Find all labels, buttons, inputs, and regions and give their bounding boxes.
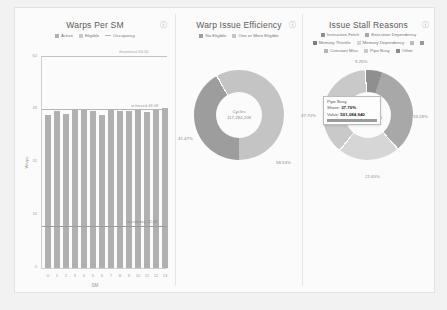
x-axis-title: SM (15, 283, 175, 288)
theoretical-occupancy-label: theoretical 64.00 (119, 49, 149, 54)
help-icon-issue-stall-reasons[interactable]: ⓘ (421, 20, 430, 29)
legend-swatch-memory-throttle (313, 41, 317, 45)
x-tick-13: 13 (160, 273, 170, 278)
legend-label-instruction-fetch: Instruction Fetch (327, 32, 359, 37)
legend-swatch-no-eligible (199, 34, 203, 38)
bar-sm-8[interactable] (117, 111, 123, 268)
legend-label-memory-throttle: Memory Throttle (319, 40, 351, 45)
legend-warp-issue-efficiency: No Eligible One or More Eligible (176, 33, 302, 38)
tooltip-accent-bar (327, 119, 377, 122)
help-icon-warp-issue-efficiency[interactable]: ⓘ (288, 20, 297, 29)
slice-pct-execution-dependency: 33.28% (413, 114, 428, 119)
tooltip-value-label: Value: (327, 112, 339, 117)
bar-sm-1[interactable] (54, 111, 60, 268)
bar-sm-12[interactable] (153, 110, 159, 268)
occupancy-line (42, 226, 167, 227)
panel-title-warp-issue-efficiency: Warp Issue Efficiency (176, 20, 302, 30)
slice-pct-pipe-busy: 37.70% (301, 113, 316, 118)
bar-sm-7[interactable] (108, 110, 114, 268)
legend-swatch-execution-dependency (365, 33, 369, 37)
legend-item-synchronization[interactable] (410, 40, 414, 45)
legend-item-not-selected[interactable] (420, 40, 424, 45)
legend-swatch-synchronization (410, 41, 414, 45)
bar-sm-6[interactable] (99, 115, 105, 268)
bar-sm-3[interactable] (72, 109, 78, 268)
legend-item-no-eligible[interactable]: No Eligible (199, 33, 226, 38)
slice-pct-no-eligible: 41.47% (178, 136, 193, 141)
achieved-occupancy-label: achieved 48.08 (131, 103, 158, 108)
legend-item-memory-throttle[interactable]: Memory Throttle (313, 40, 351, 45)
legend-label-memory-dependency: Memory Dependency (363, 40, 405, 45)
x-axis-line (41, 268, 167, 269)
slice-pct-one-or-more-eligible: 58.53% (276, 160, 291, 165)
legend-item-constant-miss[interactable]: Constant Miss (324, 48, 358, 53)
legend-swatch-other (396, 49, 400, 53)
tooltip-pipe-busy: Pipe Busy Share: 37.70% Value: 501,084,9… (323, 96, 381, 125)
panel-title-issue-stall-reasons: Issue Stall Reasons (303, 20, 434, 30)
bar-sm-4[interactable] (81, 109, 87, 268)
legend-item-other[interactable]: Other (396, 48, 413, 53)
legend-issue-stall-reasons: Instruction Fetch Execution Dependency M… (303, 32, 434, 53)
tooltip-share-label: Share: (327, 105, 340, 110)
y-tick-48: 48 (23, 105, 37, 110)
legend-swatch-constant-miss (324, 49, 328, 53)
occupancy-value-label: occupancy 12.68 (127, 219, 157, 224)
bar-sm-9[interactable] (126, 111, 132, 268)
legend-label-no-eligible: No Eligible (205, 33, 226, 38)
legend-label-constant-miss: Constant Miss (330, 48, 358, 53)
legend-item-one-or-more-eligible[interactable]: One or More Eligible (232, 33, 278, 38)
dashboard-canvas: Warps Per SM ⓘ Active Eligible Occupancy (14, 7, 435, 293)
panel-issue-stall-reasons: Issue Stall Reasons ⓘ Instruction Fetch … (303, 8, 434, 292)
legend-item-instruction-fetch[interactable]: Instruction Fetch (321, 32, 359, 37)
dashboard-page: Warps Per SM ⓘ Active Eligible Occupancy (0, 0, 447, 310)
bar-sm-11[interactable] (144, 112, 150, 268)
bar-sm-5[interactable] (90, 111, 96, 268)
bar-sm-10[interactable] (135, 110, 141, 268)
legend-swatch-instruction-fetch (321, 33, 325, 37)
bar-sm-2[interactable] (63, 114, 69, 268)
tooltip-value-value: 501,084,940 (340, 112, 364, 117)
tooltip-value-row: Value: 501,084,940 (327, 112, 377, 118)
legend-swatch-not-selected (420, 41, 424, 45)
y-axis-line (41, 56, 42, 268)
y-tick-64: 64 (23, 53, 37, 58)
legend-item-memory-dependency[interactable]: Memory Dependency (357, 40, 405, 45)
panel-warp-issue-efficiency: Warp Issue Efficiency ⓘ No Eligible One … (176, 8, 302, 292)
legend-label-execution-dependency: Execution Dependency (371, 32, 416, 37)
achieved-occupancy-line (42, 109, 167, 110)
y-tick-0: 0 (23, 264, 37, 269)
legend-swatch-memory-dependency (357, 41, 361, 45)
legend-swatch-one-or-more-eligible (232, 34, 236, 38)
slice-pct-memory-dependency: 21.65% (365, 174, 380, 179)
y-tick-16: 16 (23, 211, 37, 216)
bar-sm-0[interactable] (45, 115, 51, 268)
legend-swatch-pipe-busy (364, 49, 368, 53)
donut-center-value: 117,284,208 (227, 115, 251, 121)
plot-area-warps-per-sm: 64 48 32 16 0 Warps theoretical 64.00 (15, 8, 175, 292)
tooltip-share-value: 37.70% (341, 105, 356, 110)
legend-label-one-or-more-eligible: One or More Eligible (238, 33, 278, 38)
legend-item-pipe-busy[interactable]: Pipe Busy (364, 48, 390, 53)
panel-warps-per-sm: Warps Per SM ⓘ Active Eligible Occupancy (15, 8, 175, 292)
slice-pct-instruction-fetch: 9.25% (355, 59, 367, 64)
legend-label-other: Other (402, 48, 413, 53)
legend-label-pipe-busy: Pipe Busy (370, 48, 390, 53)
y-axis-title: Warps (24, 148, 29, 178)
legend-item-execution-dependency[interactable]: Execution Dependency (365, 32, 416, 37)
theoretical-occupancy-line (42, 56, 167, 57)
donut-center-warp-issue-efficiency: Cycles 117,284,208 (216, 92, 262, 138)
bar-sm-13[interactable] (162, 108, 168, 268)
